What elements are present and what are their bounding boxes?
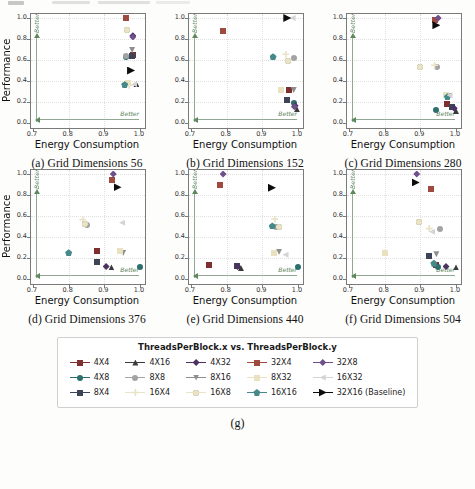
gridline bbox=[189, 195, 303, 196]
ylabel-zone: Performance bbox=[0, 169, 13, 325]
ylabel-zone bbox=[158, 13, 171, 169]
gridline bbox=[385, 170, 386, 284]
subplot-caption: (e) Grid Dimensions 440 bbox=[180, 313, 310, 325]
tick-label: 0.2 bbox=[17, 97, 27, 105]
gridline bbox=[69, 170, 70, 284]
legend-label: 8X16 bbox=[210, 373, 231, 382]
better-arrow-horizontal bbox=[356, 275, 455, 276]
plot-area: BetterBetter bbox=[346, 169, 462, 285]
point-16X8 bbox=[124, 27, 130, 33]
tick-label: 0.2 bbox=[333, 253, 343, 261]
x-axis-label: Energy Consumption bbox=[188, 139, 302, 150]
tick-label: 0.7 bbox=[343, 286, 353, 294]
better-arrowhead-up bbox=[192, 33, 198, 38]
plot-column: BetterBetter0.70.80.91.0Energy Consumpti… bbox=[30, 169, 150, 325]
point-8X32 bbox=[271, 250, 277, 256]
legend-entry-4X4: 4X4 bbox=[70, 355, 110, 370]
header-smudge bbox=[98, 1, 150, 4]
better-label-vertical: Better bbox=[349, 172, 356, 189]
legend-entry-32X8: 32X8 bbox=[313, 355, 406, 370]
y-tick-mark bbox=[185, 81, 188, 82]
tick-label: 0.4 bbox=[175, 232, 185, 240]
tick-label: 0.2 bbox=[175, 253, 185, 261]
x-tick-labels: 0.70.80.91.0 bbox=[188, 129, 302, 138]
better-arrow-vertical bbox=[352, 38, 353, 122]
better-label-horizontal: Better bbox=[120, 110, 139, 117]
y-tick-mark bbox=[343, 39, 346, 40]
legend-marker bbox=[247, 373, 267, 383]
plot-area: BetterBetter bbox=[188, 169, 304, 285]
tick-label: 0.8 bbox=[220, 286, 230, 294]
legend-grid: 4X44X88X44X168X816X44X328X1616X832X48X32… bbox=[70, 355, 406, 400]
gridline bbox=[262, 170, 263, 284]
better-arrowhead-left bbox=[193, 117, 198, 123]
y-tick-mark bbox=[185, 279, 188, 280]
tick-label: 1.0 bbox=[17, 13, 27, 21]
x-tick-labels: 0.70.80.91.0 bbox=[346, 285, 460, 294]
point-32X16 bbox=[114, 183, 122, 191]
marker-diamond bbox=[193, 359, 200, 366]
better-arrowhead-left bbox=[351, 273, 356, 279]
tick-label: 1.0 bbox=[450, 130, 460, 138]
y-tick-mark bbox=[343, 60, 346, 61]
gridline bbox=[31, 39, 145, 40]
y-tick-mark bbox=[185, 216, 188, 217]
y-tick-mark bbox=[27, 216, 30, 217]
better-label-vertical: Better bbox=[191, 172, 198, 189]
y-tick-mark bbox=[343, 18, 346, 19]
tick-label: 0.9 bbox=[414, 130, 424, 138]
point-32X8 bbox=[220, 171, 227, 178]
legend-marker bbox=[247, 388, 267, 398]
point-16X8 bbox=[285, 58, 291, 64]
point-8X32 bbox=[117, 248, 123, 254]
x-axis-label: Energy Consumption bbox=[346, 139, 460, 150]
y-tick-mark bbox=[185, 237, 188, 238]
gridline bbox=[31, 174, 145, 175]
better-label-vertical: Better bbox=[33, 172, 40, 189]
legend-entry-32X4: 32X4 bbox=[247, 355, 297, 370]
gridline bbox=[31, 60, 145, 61]
tick-label: 1.0 bbox=[134, 130, 144, 138]
better-arrowhead-up bbox=[34, 189, 40, 194]
x-tick-labels: 0.70.80.91.0 bbox=[346, 129, 460, 138]
better-arrow-vertical bbox=[36, 38, 37, 122]
plot-column: BetterBetter0.70.80.91.0Energy Consumpti… bbox=[30, 13, 150, 169]
point-8X4 bbox=[129, 53, 135, 59]
marker-square bbox=[77, 360, 83, 366]
plot-column: BetterBetter0.70.80.91.0Energy Consumpti… bbox=[188, 169, 308, 325]
tick-label: 0.6 bbox=[333, 211, 343, 219]
y-tick-mark bbox=[343, 216, 346, 217]
legend-entry-32X16: 32X16 (Baseline) bbox=[313, 385, 406, 400]
tick-label: 0.4 bbox=[175, 76, 185, 84]
y-axis-label: Performance bbox=[0, 169, 13, 283]
gridline bbox=[69, 14, 70, 128]
gridline bbox=[385, 14, 386, 128]
tick-label: 0.8 bbox=[17, 34, 27, 42]
marker-square bbox=[254, 375, 260, 381]
x-tick-labels: 0.70.80.91.0 bbox=[30, 285, 144, 294]
subplot-caption: (a) Grid Dimensions 56 bbox=[22, 157, 152, 169]
tick-label: 0.8 bbox=[333, 190, 343, 198]
tick-label: 0.4 bbox=[17, 232, 27, 240]
legend-marker bbox=[186, 358, 206, 368]
legend-marker bbox=[70, 388, 90, 398]
better-arrowhead-left bbox=[35, 117, 40, 123]
tick-label: 1.0 bbox=[333, 13, 343, 21]
subplot-caption: (d) Grid Dimensions 376 bbox=[22, 313, 152, 325]
plot-area: BetterBetter bbox=[30, 169, 146, 285]
legend: ThreadsPerBlock.x vs. ThreadsPerBlock.y … bbox=[57, 337, 419, 408]
better-label-horizontal: Better bbox=[436, 110, 455, 117]
y-tick-mark bbox=[27, 195, 30, 196]
y-tick-mark bbox=[185, 102, 188, 103]
point-16X8 bbox=[417, 64, 423, 70]
gridline bbox=[189, 237, 303, 238]
gridline bbox=[31, 216, 145, 217]
gridline bbox=[420, 170, 421, 284]
better-arrowhead-up bbox=[350, 189, 356, 194]
gridline bbox=[347, 60, 461, 61]
y-tick-mark bbox=[343, 237, 346, 238]
legend-entry-8X8: 8X8 bbox=[125, 370, 170, 385]
subplot-c: 0.00.20.40.60.81.0BetterBetter0.70.80.91… bbox=[316, 13, 474, 169]
legend-title: ThreadsPerBlock.x vs. ThreadsPerBlock.y bbox=[70, 342, 406, 352]
tick-label: 0.6 bbox=[175, 55, 185, 63]
